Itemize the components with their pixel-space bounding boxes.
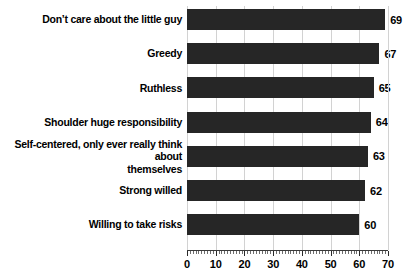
x-axis-minor-tick [276, 251, 277, 254]
x-axis-minor-tick [259, 251, 260, 254]
category-axis-labels: Don’t care about the little guyGreedyRut… [0, 6, 182, 250]
x-axis-major-tick [302, 251, 303, 256]
x-axis-minor-tick [342, 251, 343, 254]
bar-value-label: 60 [364, 219, 376, 231]
bar-row: 60 [187, 214, 388, 235]
x-axis-minor-tick [239, 251, 240, 254]
x-axis-minor-tick [293, 251, 294, 254]
x-axis-minor-tick [250, 251, 251, 254]
plot-right-edge [388, 6, 389, 250]
x-axis: 010203040506070 [187, 250, 388, 275]
bar-row: 64 [187, 112, 388, 133]
x-axis-tick-label: 40 [296, 258, 308, 270]
category-label: Strong willed [0, 180, 182, 201]
bar[interactable] [187, 9, 385, 30]
bar[interactable] [187, 180, 365, 201]
bar-value-label: 67 [384, 48, 396, 60]
x-axis-minor-tick [356, 251, 357, 254]
category-label: Shoulder huge responsibility [0, 112, 182, 133]
x-axis-minor-tick [201, 251, 202, 254]
x-axis-minor-tick [282, 251, 283, 254]
x-axis-minor-tick [362, 251, 363, 254]
x-axis-minor-tick [336, 251, 337, 254]
x-axis-minor-tick [313, 251, 314, 254]
x-axis-minor-tick [316, 251, 317, 254]
x-axis-tick-label: 70 [382, 258, 394, 270]
bar-chart: Don’t care about the little guyGreedyRut… [0, 0, 418, 275]
bar[interactable] [187, 146, 368, 167]
x-axis-tick-label: 60 [353, 258, 365, 270]
x-axis-minor-tick [385, 251, 386, 254]
x-axis-minor-tick [242, 251, 243, 254]
x-axis-minor-tick [299, 251, 300, 254]
bar[interactable] [187, 43, 379, 64]
bar-row: 63 [187, 146, 388, 167]
x-axis-minor-tick [354, 251, 355, 254]
x-axis-minor-tick [310, 251, 311, 254]
category-label: Willing to take risks [0, 214, 182, 235]
x-axis-major-tick [244, 251, 245, 256]
x-axis-minor-tick [267, 251, 268, 254]
x-axis-minor-tick [345, 251, 346, 254]
x-axis-minor-tick [256, 251, 257, 254]
x-axis-minor-tick [328, 251, 329, 254]
x-axis-minor-tick [265, 251, 266, 254]
x-axis-minor-tick [213, 251, 214, 254]
bar-rows: 69676564636260 [187, 6, 388, 250]
x-axis-minor-tick [351, 251, 352, 254]
x-axis-minor-tick [319, 251, 320, 254]
x-axis-minor-tick [270, 251, 271, 254]
x-axis-major-tick [388, 251, 389, 256]
x-axis-minor-tick [207, 251, 208, 254]
x-axis-major-tick [216, 251, 217, 256]
bar-value-label: 69 [390, 14, 402, 26]
x-axis-minor-tick [296, 251, 297, 254]
x-axis-minor-tick [290, 251, 291, 254]
plot-area: 69676564636260 [187, 6, 388, 250]
x-axis-minor-tick [219, 251, 220, 254]
x-axis-minor-tick [308, 251, 309, 254]
x-axis-minor-tick [198, 251, 199, 254]
x-axis-minor-tick [333, 251, 334, 254]
x-axis-minor-tick [227, 251, 228, 254]
x-axis-minor-tick [236, 251, 237, 254]
x-axis-tick-label: 10 [210, 258, 222, 270]
x-axis-tick-label: 50 [325, 258, 337, 270]
x-axis-minor-tick [210, 251, 211, 254]
x-axis-minor-tick [221, 251, 222, 254]
category-label: Ruthless [0, 77, 182, 98]
bar-row: 69 [187, 9, 388, 30]
x-axis-tick-label: 0 [184, 258, 190, 270]
category-label: Greedy [0, 43, 182, 64]
x-axis-minor-tick [368, 251, 369, 254]
x-axis-minor-tick [348, 251, 349, 254]
bar-row: 67 [187, 43, 388, 64]
x-axis-major-tick [359, 251, 360, 256]
x-axis-minor-tick [190, 251, 191, 254]
x-axis-minor-tick [325, 251, 326, 254]
bar-value-label: 62 [370, 185, 382, 197]
x-axis-minor-tick [377, 251, 378, 254]
x-axis-minor-tick [288, 251, 289, 254]
x-axis-minor-tick [233, 251, 234, 254]
x-axis-major-tick [187, 251, 188, 256]
bar-row: 62 [187, 180, 388, 201]
x-axis-minor-tick [262, 251, 263, 254]
bar[interactable] [187, 77, 374, 98]
x-axis-minor-tick [382, 251, 383, 254]
x-axis-minor-tick [339, 251, 340, 254]
x-axis-minor-tick [253, 251, 254, 254]
bar[interactable] [187, 214, 359, 235]
x-axis-minor-tick [204, 251, 205, 254]
x-axis-minor-tick [247, 251, 248, 254]
x-axis-minor-tick [279, 251, 280, 254]
x-axis-minor-tick [224, 251, 225, 254]
x-axis-minor-tick [196, 251, 197, 254]
bar-value-label: 63 [373, 150, 385, 162]
x-axis-tick-label: 30 [267, 258, 279, 270]
x-axis-minor-tick [230, 251, 231, 254]
bar-row: 65 [187, 77, 388, 98]
x-axis-major-tick [331, 251, 332, 256]
bar[interactable] [187, 112, 371, 133]
x-axis-minor-tick [374, 251, 375, 254]
